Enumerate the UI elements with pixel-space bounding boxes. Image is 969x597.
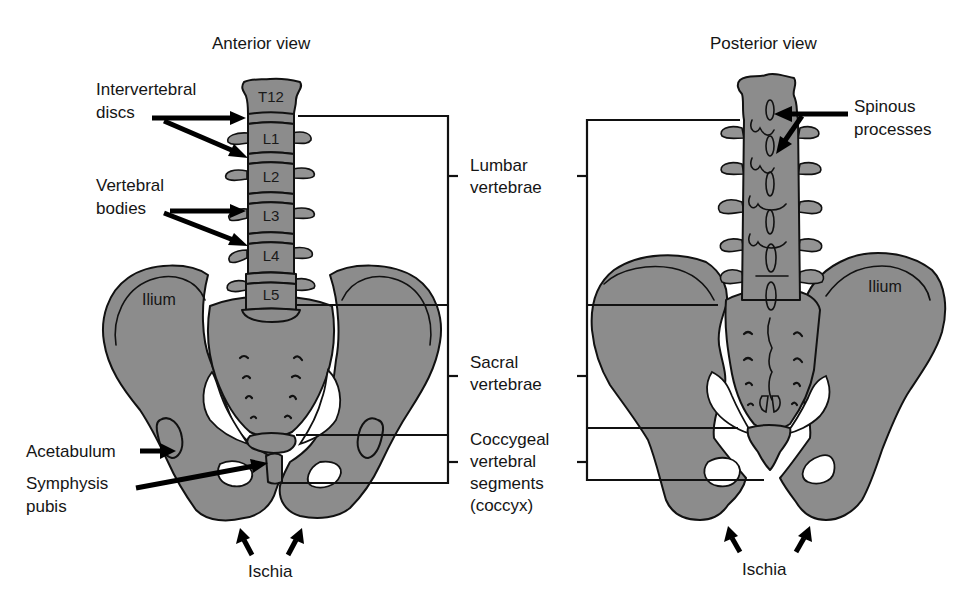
arrowhead	[230, 111, 246, 125]
label-posterior-ilium: Ilium	[868, 277, 902, 297]
label-sacral-line2: vertebrae	[470, 375, 542, 395]
label-spinous-processes-line2: processes	[854, 120, 931, 140]
vertebra-label-t12: T12	[258, 89, 284, 105]
arrow-ischium-left	[244, 540, 252, 555]
label-acetabulum: Acetabulum	[26, 442, 116, 462]
spine-pelvis-diagram: Anterior view Posterior view T12 L1 L2 L…	[0, 0, 969, 597]
label-spinous-processes-line1: Spinous	[854, 97, 915, 117]
arrow-ischium-right	[288, 540, 296, 555]
posterior-coccyx	[748, 425, 791, 470]
label-symphysis-pubis-line2: pubis	[26, 497, 67, 517]
label-anterior-ischia: Ischia	[248, 562, 292, 582]
vertebra-label-l5: L5	[263, 287, 280, 303]
label-anterior-ilium: Ilium	[142, 290, 176, 310]
label-coccygeal-line2: vertebral	[470, 452, 536, 472]
label-coccygeal-line1: Coccygeal	[470, 430, 549, 450]
posterior-lumbar-spine	[718, 74, 823, 310]
arrow-ischium-right-post	[796, 538, 804, 552]
label-symphysis-pubis-line1: Symphysis	[26, 474, 108, 494]
label-intervertebral-discs-line1: Intervertebral	[96, 80, 196, 100]
posterior-view-title: Posterior view	[710, 34, 817, 54]
arrowhead	[228, 233, 248, 246]
vertebra-label-l3: L3	[263, 208, 280, 224]
anterior-coccyx	[247, 433, 295, 453]
label-lumbar-line2: vertebrae	[470, 178, 542, 198]
anterior-view-title: Anterior view	[212, 34, 310, 54]
label-intervertebral-discs-line2: discs	[96, 103, 135, 123]
vertebra-label-l2: L2	[263, 169, 280, 185]
label-coccygeal-line4: (coccyx)	[470, 496, 533, 516]
anterior-symphysis	[266, 454, 282, 484]
arrow-ischium-left-post	[732, 538, 740, 552]
label-vertebral-bodies-line2: bodies	[96, 199, 146, 219]
vertebra-label-l4: L4	[263, 248, 280, 264]
label-posterior-ischia: Ischia	[742, 560, 786, 580]
arrow-disc-2	[164, 121, 236, 152]
label-vertebral-bodies-line1: Vertebral	[96, 176, 164, 196]
label-coccygeal-line3: segments	[470, 474, 544, 494]
label-sacral-line1: Sacral	[470, 353, 518, 373]
posterior-left-obturator-foramen	[704, 458, 740, 487]
vertebra-label-l1: L1	[263, 131, 280, 147]
label-lumbar-line1: Lumbar	[470, 156, 528, 176]
arrow-body-2	[164, 213, 236, 241]
arrowhead	[228, 144, 248, 158]
